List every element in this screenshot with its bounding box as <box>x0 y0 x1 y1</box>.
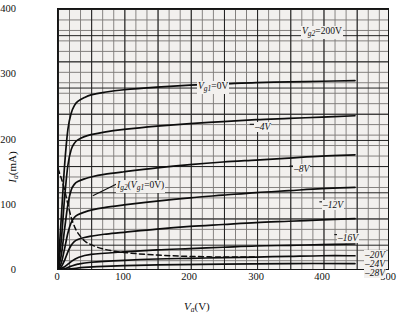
curve-layer <box>58 9 388 269</box>
annotation-minus-16v: –16V <box>337 233 359 243</box>
x-tick-100: 100 <box>103 272 143 282</box>
curve--24v <box>58 256 355 270</box>
y-axis-label-main: I <box>6 179 18 183</box>
annotation-minus-28v: –28V <box>364 268 386 278</box>
annotation-minus-12v: –12V <box>322 200 344 210</box>
x-tick-400: 400 <box>302 272 342 282</box>
y-tick-0: 0 <box>0 265 16 275</box>
x-tick-200: 200 <box>169 272 209 282</box>
ig2-subscript: g2 <box>120 183 128 192</box>
x-tick-300: 300 <box>236 272 276 282</box>
chart-figure: 400 300 200 100 0 Ia(mA) 0 100 200 300 4… <box>0 0 408 326</box>
x-axis-label-main: V <box>184 300 191 312</box>
curve--28v <box>58 264 355 270</box>
annotation-minus-4v: –4V <box>254 122 271 132</box>
y-tick-300: 300 <box>0 69 16 79</box>
annotation-ig2: Ig2(Vg1=0V) <box>116 180 165 193</box>
curve--8v <box>58 155 355 270</box>
vg1-value: =0V <box>211 81 228 91</box>
plot-area: Vg2=200V Vg1=0V –4V –8V –12V –16V –20V –… <box>57 8 389 270</box>
y-tick-400: 400 <box>0 4 16 14</box>
annotation-minus-8v: –8V <box>293 164 310 174</box>
y-axis-label-sub: a <box>11 175 20 179</box>
annotation-vg2: Vg2=200V <box>301 26 343 39</box>
y-axis-label: Ia(mA) <box>6 132 20 202</box>
x-tick-0: 0 <box>37 272 77 282</box>
x-axis-label: Va(V) <box>184 300 210 314</box>
annotation-vg1-0v: Vg1=0V <box>197 81 229 94</box>
curve--4v <box>58 116 355 270</box>
y-axis-label-unit: (mA) <box>6 151 18 175</box>
annotation-leader-line <box>93 183 119 196</box>
x-axis-label-unit: (V) <box>194 300 209 312</box>
vg2-value: =200V <box>315 26 341 36</box>
ig2-vg1-value: =0V) <box>144 180 164 190</box>
